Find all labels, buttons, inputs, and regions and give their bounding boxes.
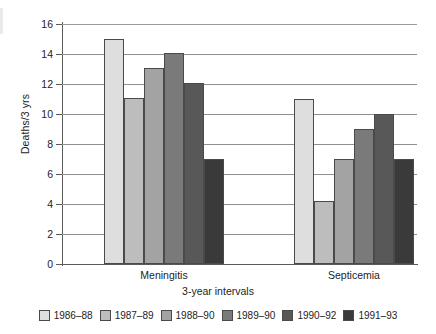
legend-swatch (100, 310, 111, 321)
legend-item: 1987–89 (100, 310, 154, 321)
legend-item: 1990–92 (282, 310, 336, 321)
bar (184, 83, 204, 265)
y-axis-tick-label: 6 (47, 169, 53, 180)
y-axis-tick (56, 24, 62, 25)
y-axis-tick (56, 174, 62, 175)
y-axis-tick (56, 114, 62, 115)
y-axis-tick-label: 2 (47, 229, 53, 240)
bar (334, 159, 354, 264)
x-axis-category-label: Septicemia (294, 269, 414, 281)
y-axis-tick (56, 264, 62, 265)
y-axis-tick-label: 14 (41, 49, 53, 60)
legend-item: 1989–90 (222, 310, 276, 321)
bar (354, 129, 374, 264)
x-axis-title: 3-year intervals (0, 285, 436, 297)
scan-edge-artifact (0, 8, 3, 34)
y-axis-tick (56, 234, 62, 235)
bar-group (294, 24, 414, 264)
legend-label: 1990–92 (297, 310, 336, 321)
legend-item: 1986–88 (39, 310, 93, 321)
bar (124, 98, 144, 265)
legend-label: 1987–89 (115, 310, 154, 321)
legend-label: 1988–90 (176, 310, 215, 321)
bar (204, 159, 224, 264)
bar (374, 114, 394, 264)
y-axis-tick-label: 16 (41, 19, 53, 30)
y-axis-tick-label: 12 (41, 79, 53, 90)
legend-label: 1986–88 (54, 310, 93, 321)
bar (394, 159, 414, 264)
plot-area: 1614121086420 (62, 24, 417, 264)
legend-swatch (222, 310, 233, 321)
chart-legend: 1986–881987–891988–901989–901990–921991–… (0, 310, 436, 321)
legend-label: 1991–93 (358, 310, 397, 321)
legend-swatch (343, 310, 354, 321)
y-axis-tick (56, 204, 62, 205)
x-axis-line (62, 264, 418, 265)
bar (164, 53, 184, 265)
x-axis-category-label: Meningitis (104, 269, 224, 281)
legend-label: 1989–90 (237, 310, 276, 321)
bar (144, 68, 164, 265)
bar (294, 99, 314, 264)
legend-swatch (161, 310, 172, 321)
y-axis-tick-label: 4 (47, 199, 53, 210)
bar-chart: Deaths/3 yrs 1614121086420 3-year interv… (0, 0, 436, 334)
bar (104, 39, 124, 264)
bar-group (104, 24, 224, 264)
legend-swatch (282, 310, 293, 321)
y-axis-tick (56, 84, 62, 85)
y-axis-tick (56, 144, 62, 145)
y-axis-tick (56, 54, 62, 55)
bar (314, 201, 334, 264)
y-axis-tick-label: 0 (47, 259, 53, 270)
y-axis-tick-label: 8 (47, 139, 53, 150)
legend-swatch (39, 310, 50, 321)
legend-item: 1988–90 (161, 310, 215, 321)
y-axis-title: Deaths/3 yrs (19, 69, 31, 179)
y-axis-tick-label: 10 (41, 109, 53, 120)
legend-item: 1991–93 (343, 310, 397, 321)
